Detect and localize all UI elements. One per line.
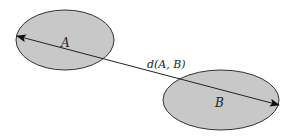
distance-label: d(A, B) [147,58,186,71]
set-b-label: B [214,96,224,110]
distance-diagram: A B d(A, B) [0,0,292,139]
set-a-label: A [60,36,70,50]
diagram-svg: A B d(A, B) [0,0,292,139]
